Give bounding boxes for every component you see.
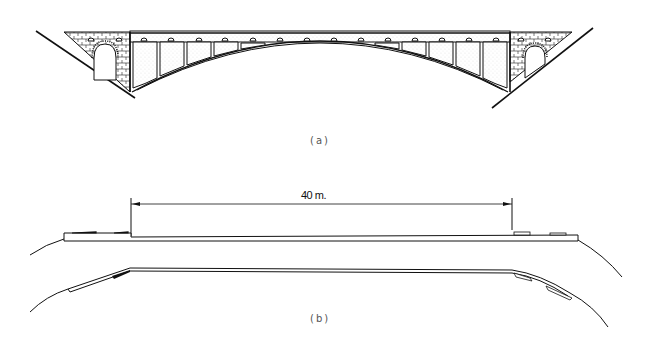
- left-abutment-arch-opening: [94, 44, 116, 80]
- upper-right-curve: [578, 240, 622, 277]
- caption-a: (a): [310, 135, 330, 146]
- dimension-40m: [131, 198, 512, 236]
- upper-deck: [64, 233, 578, 241]
- dimension-label: 40 m.: [301, 189, 326, 201]
- upper-left-curve: [30, 239, 64, 255]
- caption-b: (b): [310, 313, 330, 324]
- lower-left-curve: [30, 289, 68, 312]
- bridge-diagram: [0, 0, 648, 347]
- panel-a-bridge-elevation: [36, 28, 593, 108]
- panel-b-span-schematic: [30, 198, 622, 327]
- lower-right-curve: [570, 293, 608, 327]
